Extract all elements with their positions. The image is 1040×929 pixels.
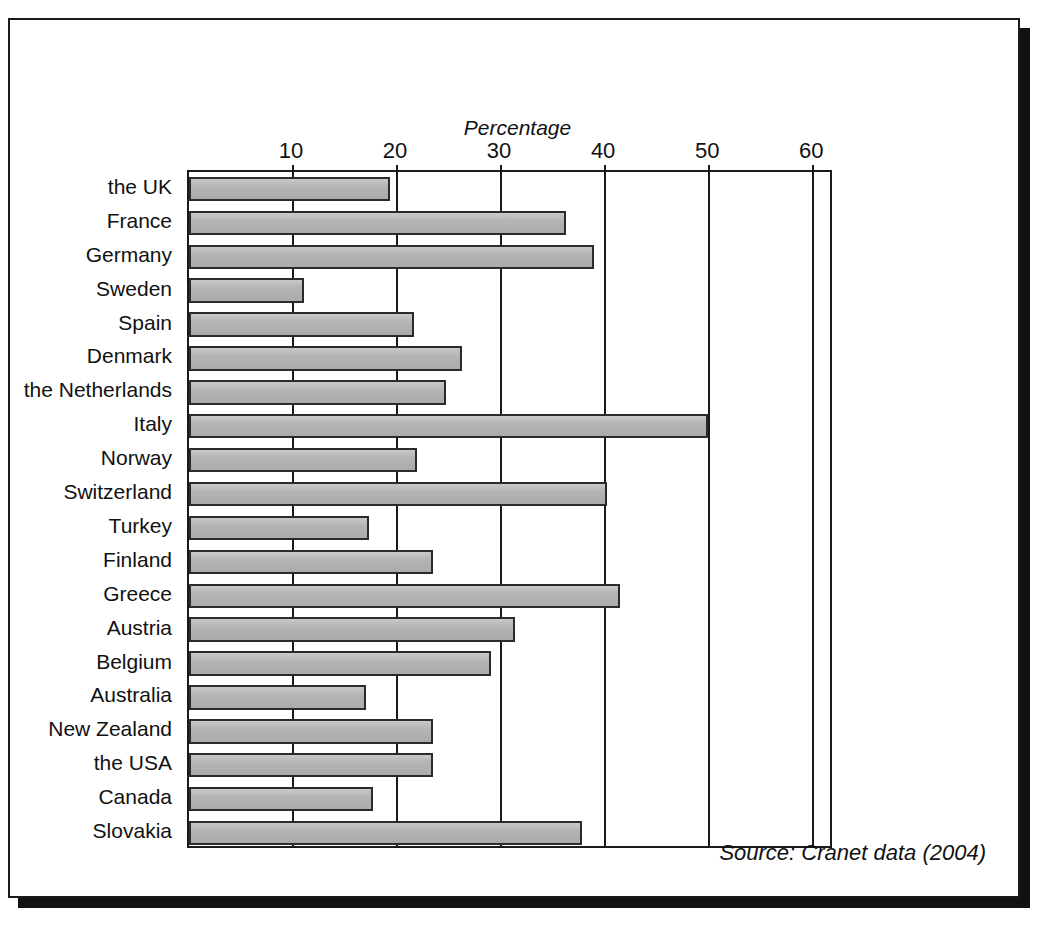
y-category-label: Belgium [96,650,172,674]
x-tick-label: 10 [279,138,303,164]
bar [189,516,369,540]
bar [189,719,433,743]
bar [189,482,607,506]
bar-row [189,312,830,336]
bar [189,278,304,302]
y-category-label: Turkey [109,514,172,538]
bar-row [189,550,830,574]
y-category-label: Denmark [87,344,172,368]
y-category-label: the Netherlands [24,378,172,402]
y-category-label: New Zealand [48,717,172,741]
x-axis-title: Percentage [195,116,840,140]
bar-row [189,584,830,608]
bar-row [189,245,830,269]
bar-row [189,787,830,811]
bar [189,753,433,777]
y-category-label: Norway [101,446,172,470]
bar-chart: Percentage 102030405060 the UKFranceGerm… [10,20,1022,900]
source-note: Source: Cranet data (2004) [719,840,986,866]
bar-row [189,414,830,438]
bar [189,448,417,472]
bar [189,651,491,675]
bar-row [189,719,830,743]
bar-row [189,380,830,404]
bar [189,414,708,438]
bar [189,685,366,709]
y-category-label: Slovakia [93,819,172,843]
plot-area [187,170,832,848]
y-category-label: the USA [94,751,172,775]
bar-row [189,651,830,675]
bar [189,245,594,269]
y-category-label: Switzerland [63,480,172,504]
bar-row [189,753,830,777]
figure-frame: Percentage 102030405060 the UKFranceGerm… [8,18,1020,898]
y-category-label: Italy [133,412,172,436]
bar [189,787,373,811]
bar [189,584,620,608]
bar-row [189,617,830,641]
bar-row [189,482,830,506]
x-axis-tick-labels: 102030405060 [10,138,1022,166]
bar [189,346,462,370]
y-axis-category-labels: the UKFranceGermanySwedenSpainDenmarkthe… [10,170,180,848]
bar [189,177,390,201]
bar-row [189,448,830,472]
y-category-label: Sweden [96,277,172,301]
y-category-label: Austria [107,616,172,640]
bar-row [189,516,830,540]
x-tick-label: 60 [799,138,823,164]
x-tick-label: 50 [695,138,719,164]
bar [189,550,433,574]
bars-layer [189,172,830,846]
y-category-label: Greece [103,582,172,606]
y-category-label: Australia [90,683,172,707]
bar [189,211,566,235]
bar-row [189,346,830,370]
bar [189,617,515,641]
x-tick-label: 40 [591,138,615,164]
y-category-label: the UK [108,175,172,199]
bar [189,380,446,404]
x-tick-label: 20 [383,138,407,164]
bar-row [189,211,830,235]
bar [189,821,582,845]
y-category-label: Finland [103,548,172,572]
bar [189,312,414,336]
bar-row [189,177,830,201]
y-category-label: Spain [118,311,172,335]
y-category-label: France [107,209,172,233]
bar-row [189,685,830,709]
y-category-label: Canada [98,785,172,809]
x-tick-label: 30 [487,138,511,164]
scan-top-artifact [28,0,448,8]
y-category-label: Germany [86,243,172,267]
bar-row [189,278,830,302]
